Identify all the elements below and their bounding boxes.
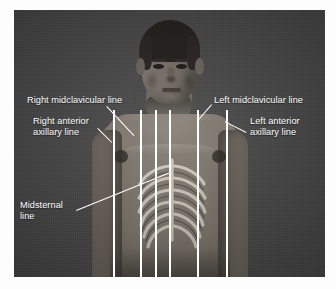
reference-line-right-midclavicular [140, 110, 142, 277]
label-left-midclavicular-line: Left midclavicular line [214, 95, 303, 106]
anatomy-figure: Right midclavicular line Right anterior … [0, 0, 336, 289]
label-left-anterior-axillary-line: Left anterior axillary line [250, 116, 300, 139]
label-midsternal-line: Midsternal line [20, 200, 63, 223]
reference-line-left-midclavicular [197, 110, 199, 277]
reference-line-right-parasternal [155, 110, 157, 277]
reference-line-midsternal [169, 110, 171, 277]
reference-line-left-anterior-axillary [226, 110, 228, 277]
label-right-midclavicular-line: Right midclavicular line [27, 95, 122, 106]
label-right-anterior-axillary-line: Right anterior axillary line [33, 116, 89, 139]
